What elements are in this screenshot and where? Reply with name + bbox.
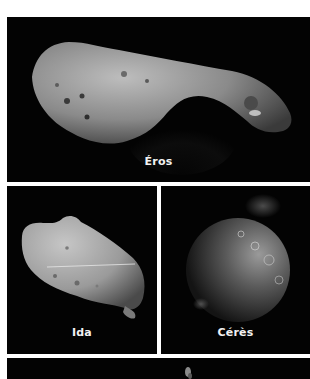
ceres-label: Cérès [161,326,310,339]
bottom-asteroid-image [7,358,310,379]
panel-ceres: Cérès [161,186,310,354]
panel-ida: Ida [7,186,157,354]
panel-eros: Éros [7,17,310,182]
eros-label: Éros [7,155,310,168]
panel-bottom [7,358,310,379]
ida-label: Ida [7,326,157,339]
